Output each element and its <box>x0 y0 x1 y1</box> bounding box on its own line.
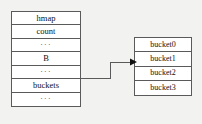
diagram-canvas: hmap count ··· B ··· buckets ··· bucket0… <box>0 0 202 124</box>
buckets-array-box: bucket0 bucket1 bucket2 bucket3 <box>134 37 192 96</box>
bucket-entry-1: bucket1 <box>135 52 191 66</box>
bucket-entry-2: bucket2 <box>135 67 191 81</box>
bucket-entry-0: bucket0 <box>135 38 191 52</box>
hmap-field-count: count <box>12 25 80 38</box>
hmap-field-ellipsis-3: ··· <box>12 93 80 106</box>
hmap-struct-header: hmap <box>12 12 80 25</box>
hmap-field-b: B <box>12 52 80 65</box>
hmap-field-buckets: buckets <box>12 79 80 92</box>
bucket-entry-3: bucket3 <box>135 81 191 95</box>
hmap-struct-box: hmap count ··· B ··· buckets ··· <box>11 11 81 107</box>
hmap-field-ellipsis-2: ··· <box>12 66 80 79</box>
hmap-field-ellipsis-1: ··· <box>12 39 80 52</box>
buckets-pointer-line <box>81 62 130 78</box>
